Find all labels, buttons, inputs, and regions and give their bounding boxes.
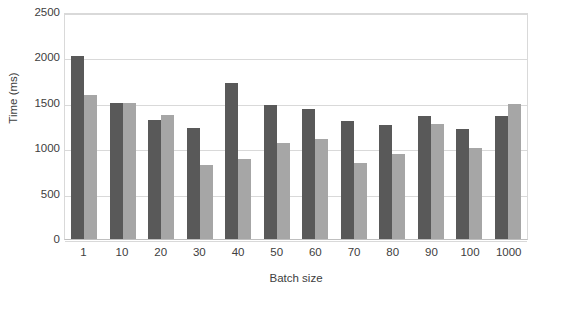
bar xyxy=(277,143,290,239)
x-axis-tick-label: 1000 xyxy=(489,247,528,259)
bar xyxy=(187,128,200,239)
y-axis-tick-label: 2500 xyxy=(18,7,60,19)
y-axis-tick-label: 2000 xyxy=(18,53,60,65)
x-axis-tick-label: 90 xyxy=(412,247,451,259)
bar xyxy=(418,116,431,239)
bar-group xyxy=(489,14,528,239)
bar xyxy=(225,83,238,239)
y-axis-tick-labels: 05001000150020002500 xyxy=(18,0,60,311)
x-axis-tick-label: 50 xyxy=(257,247,296,259)
bar xyxy=(71,56,84,239)
bar xyxy=(392,154,405,239)
x-axis-tick-label: 60 xyxy=(296,247,335,259)
bars-layer xyxy=(65,14,527,239)
bar xyxy=(238,159,251,239)
bar xyxy=(264,105,277,239)
x-axis-tick-label: 20 xyxy=(141,247,180,259)
x-axis-tick-label: 10 xyxy=(103,247,142,259)
bar xyxy=(315,139,328,239)
bar xyxy=(508,104,521,239)
bar-group xyxy=(65,14,104,239)
bar xyxy=(431,124,444,239)
bar-group xyxy=(181,14,220,239)
bar-group xyxy=(296,14,335,239)
bar xyxy=(123,103,136,239)
x-axis-tick-label: 40 xyxy=(219,247,258,259)
bar xyxy=(341,121,354,239)
bar xyxy=(469,148,482,239)
bar xyxy=(354,163,367,239)
bar xyxy=(379,125,392,239)
x-axis-tick-label: 70 xyxy=(335,247,374,259)
bar-group xyxy=(258,14,297,239)
bar-group xyxy=(104,14,143,239)
bar-group xyxy=(142,14,181,239)
bar xyxy=(161,115,174,239)
bar xyxy=(302,109,315,239)
x-axis-tick-label: 100 xyxy=(451,247,490,259)
x-axis-title: Batch size xyxy=(64,272,528,284)
x-axis-tick-label: 80 xyxy=(373,247,412,259)
bar-chart: Time (ms) 05001000150020002500 110203040… xyxy=(0,0,562,311)
bar xyxy=(495,116,508,239)
x-axis-tick-labels: 11020304050607080901001000 xyxy=(64,247,528,259)
bar-group xyxy=(335,14,374,239)
bar-group xyxy=(219,14,258,239)
bar-group xyxy=(373,14,412,239)
bar-group xyxy=(450,14,489,239)
x-axis-tick-label: 30 xyxy=(180,247,219,259)
bar xyxy=(110,103,123,239)
gridline xyxy=(65,241,527,242)
y-axis-tick-label: 500 xyxy=(18,189,60,201)
y-axis-tick-label: 1500 xyxy=(18,98,60,110)
bar xyxy=(148,120,161,239)
bar xyxy=(200,165,213,239)
plot-area xyxy=(64,13,528,240)
bar xyxy=(456,129,469,239)
y-axis-tick-label: 1000 xyxy=(18,143,60,155)
x-axis-tick-label: 1 xyxy=(64,247,103,259)
bar-group xyxy=(412,14,451,239)
y-axis-tick-label: 0 xyxy=(18,234,60,246)
bar xyxy=(84,95,97,239)
